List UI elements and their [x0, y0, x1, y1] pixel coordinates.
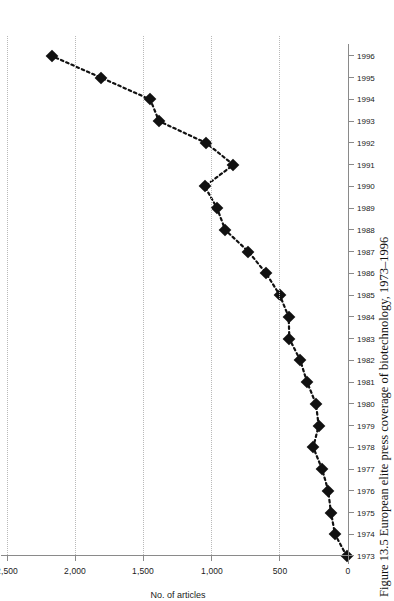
x-axis-tick-label: 1992 — [357, 138, 375, 147]
x-axis-tick-label: 1984 — [357, 312, 375, 321]
gridline — [279, 36, 280, 556]
x-axis-tick — [349, 229, 354, 230]
x-axis-tick — [349, 316, 354, 317]
x-axis-tick — [349, 295, 354, 296]
x-axis-tick-label: 1980 — [357, 399, 375, 408]
x-axis-tick-label: 1987 — [357, 247, 375, 256]
x-axis-tick-label: 1991 — [357, 160, 375, 169]
y-axis-tick-label: 2,500 — [0, 566, 18, 576]
gridline — [7, 36, 8, 556]
x-axis-tick — [349, 208, 354, 209]
x-axis-tick — [349, 273, 354, 274]
x-axis-tick-label: 1973 — [357, 552, 375, 561]
y-axis-tick — [7, 556, 8, 561]
y-axis-tick-label: 1,000 — [201, 566, 223, 576]
x-axis-tick-label: 1990 — [357, 182, 375, 191]
gridline — [75, 36, 76, 556]
y-axis-tick-label: 2,000 — [64, 566, 86, 576]
x-axis-tick — [349, 56, 354, 57]
rotated-chart-wrapper: 05001,0001,5002,0002,500 197319741975197… — [0, 0, 394, 601]
x-axis-tick-label: 1989 — [357, 204, 375, 213]
x-axis-tick-label: 1982 — [357, 356, 375, 365]
x-axis-tick — [349, 251, 354, 252]
y-axis-tick-label: 0 — [346, 566, 351, 576]
x-axis-tick-label: 1979 — [357, 421, 375, 430]
x-axis-tick-label: 1988 — [357, 225, 375, 234]
x-axis-tick — [349, 186, 354, 187]
x-axis-tick-label: 1976 — [357, 486, 375, 495]
x-axis-tick-label: 1994 — [357, 95, 375, 104]
y-axis-tick-label: 500 — [273, 566, 287, 576]
x-axis-tick-label: 1986 — [357, 269, 375, 278]
x-axis-tick-label: 1975 — [357, 508, 375, 517]
x-axis-line — [348, 44, 349, 564]
y-axis-tick-label: 1,500 — [133, 566, 155, 576]
x-axis-tick — [349, 164, 354, 165]
y-axis-line — [1, 555, 349, 556]
chart-plot-area: 05001,0001,5002,0002,500 197319741975197… — [0, 0, 394, 601]
x-axis-tick — [349, 469, 354, 470]
x-axis-tick-label: 1996 — [357, 52, 375, 61]
x-axis-tick — [349, 403, 354, 404]
x-axis-tick — [349, 99, 354, 100]
x-axis-tick — [349, 556, 354, 557]
y-axis-tick — [75, 556, 76, 561]
x-axis-tick — [349, 490, 354, 491]
y-axis-tick — [211, 556, 212, 561]
x-axis-tick-label: 1983 — [357, 334, 375, 343]
y-axis-title: No. of articles — [150, 590, 205, 600]
x-axis-tick-label: 1981 — [357, 378, 375, 387]
figure-page: 05001,0001,5002,0002,500 197319741975197… — [0, 0, 394, 601]
x-axis-tick — [349, 382, 354, 383]
x-axis-tick-label: 1977 — [357, 465, 375, 474]
x-axis-tick-label: 1978 — [357, 443, 375, 452]
x-axis-tick-label: 1995 — [357, 73, 375, 82]
x-axis-tick — [349, 360, 354, 361]
y-axis-tick — [143, 556, 144, 561]
gridline — [211, 36, 212, 556]
x-axis-tick-label: 1985 — [357, 291, 375, 300]
x-axis-tick — [349, 534, 354, 535]
y-axis-tick — [279, 556, 280, 561]
x-axis-tick-label: 1993 — [357, 117, 375, 126]
x-axis-tick — [349, 447, 354, 448]
x-axis-tick — [349, 121, 354, 122]
x-axis-tick — [349, 425, 354, 426]
x-axis-tick — [349, 338, 354, 339]
x-axis-tick-label: 1974 — [357, 530, 375, 539]
figure-caption: Figure 13.5 European elite press coverag… — [377, 237, 392, 597]
x-axis-tick — [349, 142, 354, 143]
x-axis-tick — [349, 512, 354, 513]
gridline — [143, 36, 144, 556]
x-axis-tick — [349, 77, 354, 78]
